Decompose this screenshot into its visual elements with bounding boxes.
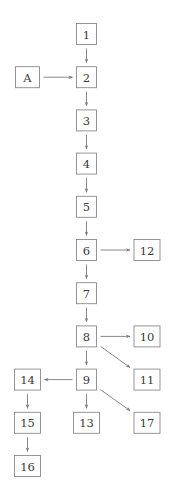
edge-8-to-11 bbox=[101, 346, 131, 367]
node-label: 17 bbox=[140, 416, 155, 430]
node-label: 10 bbox=[140, 330, 155, 344]
node-label: 7 bbox=[83, 287, 90, 301]
node-11: 11 bbox=[134, 369, 160, 390]
node-16: 16 bbox=[15, 456, 41, 477]
node-label: 9 bbox=[83, 373, 90, 387]
node-label: 8 bbox=[83, 330, 90, 344]
node-12: 12 bbox=[134, 240, 160, 261]
node-6: 6 bbox=[77, 240, 97, 261]
node-5: 5 bbox=[77, 196, 97, 217]
node-label: 16 bbox=[20, 460, 35, 474]
node-7: 7 bbox=[77, 283, 97, 304]
node-label: 4 bbox=[83, 157, 90, 171]
node-label: A bbox=[22, 71, 32, 85]
node-a: A bbox=[16, 67, 40, 88]
node-3: 3 bbox=[77, 110, 97, 131]
nodes-layer: 1A234561278101191413171516 bbox=[15, 24, 161, 477]
node-4: 4 bbox=[77, 153, 97, 174]
node-label: 3 bbox=[83, 114, 90, 128]
node-2: 2 bbox=[77, 67, 97, 88]
node-9: 9 bbox=[77, 369, 97, 390]
node-15: 15 bbox=[15, 412, 41, 433]
node-14: 14 bbox=[15, 369, 41, 390]
node-label: 12 bbox=[140, 244, 155, 258]
edge-9-to-17 bbox=[101, 390, 131, 411]
node-label: 14 bbox=[20, 373, 35, 387]
node-label: 11 bbox=[140, 373, 155, 387]
node-1: 1 bbox=[77, 24, 97, 45]
node-label: 13 bbox=[79, 416, 94, 430]
node-13: 13 bbox=[74, 412, 100, 433]
node-label: 1 bbox=[83, 28, 90, 42]
node-label: 6 bbox=[83, 244, 90, 258]
node-10: 10 bbox=[134, 326, 160, 347]
node-label: 5 bbox=[83, 200, 90, 214]
node-label: 15 bbox=[20, 416, 35, 430]
node-17: 17 bbox=[134, 412, 160, 433]
flowchart-diagram: 1A234561278101191413171516 bbox=[0, 0, 172, 504]
node-label: 2 bbox=[83, 71, 90, 85]
node-8: 8 bbox=[77, 326, 97, 347]
